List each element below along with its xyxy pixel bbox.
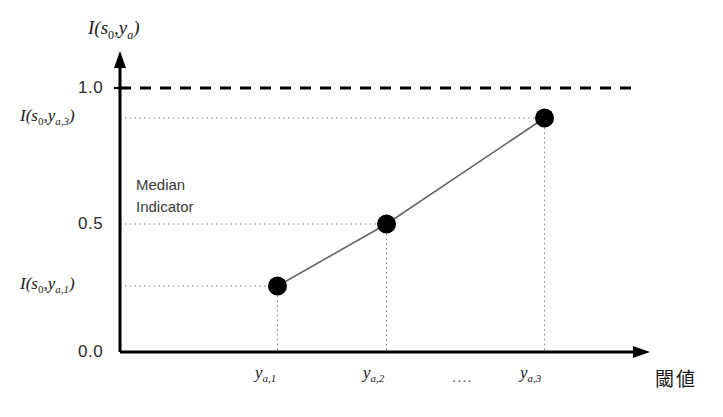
series-line-median-indicator [278, 118, 545, 286]
y-tick-ya3-fn: I [20, 106, 26, 125]
y-tick-label-0-0: 0.0 [78, 342, 103, 362]
y-tick-ya1-fn: I [20, 274, 26, 293]
y-tick-ya3-s: s [31, 106, 38, 125]
data-point-ya3 [535, 109, 554, 128]
y-axis-arrow [114, 51, 126, 68]
median-indicator-line-1: Median [136, 174, 194, 196]
y-tick-ya3-s-sub: 0 [38, 115, 44, 127]
x-tick-ya1-y: y [255, 363, 263, 382]
x-tick-ya2-y: y [363, 363, 371, 382]
x-tick-ya1-sub: a,1 [263, 372, 277, 384]
y-axis-caption-y: y [119, 17, 127, 38]
y-axis-caption-s: s [101, 17, 108, 38]
figure-canvas: I(s0,ya) 1.0 0.5 0.0 I(s0,ya,3) I(s0,ya,… [0, 0, 723, 417]
x-tick-label-ya1: ya,1 [255, 363, 276, 384]
y-tick-ya1-s-sub: 0 [38, 283, 44, 295]
plot-area [0, 0, 723, 417]
x-tick-ya2-sub: a,2 [371, 372, 385, 384]
x-tick-ellipsis: .... [452, 368, 473, 385]
data-point-ya1 [268, 277, 287, 296]
x-tick-label-ya2: ya,2 [363, 363, 384, 384]
x-tick-label-ya3: ya,3 [520, 363, 541, 384]
y-axis-caption-close: ) [133, 17, 139, 38]
y-tick-label-0-5: 0.5 [78, 214, 103, 234]
y-tick-label-ya1: I(s0,ya,1) [20, 274, 75, 295]
median-indicator-line-2: Indicator [136, 196, 194, 218]
y-tick-ya1-y-sub: a,1 [55, 283, 69, 295]
data-point-ya2 [377, 215, 396, 234]
y-axis-caption: I(s0,ya) [88, 17, 140, 43]
y-tick-ya1-s: s [31, 274, 38, 293]
x-tick-ya3-sub: a,3 [528, 372, 542, 384]
x-axis-arrow [633, 346, 650, 358]
x-tick-ya3-y: y [520, 363, 528, 382]
median-indicator-annotation: Median Indicator [136, 174, 194, 218]
y-tick-label-ya3: I(s0,ya,3) [20, 106, 75, 127]
x-axis-caption: 閾値 [655, 364, 697, 391]
y-tick-ya3-y-sub: a,3 [55, 115, 69, 127]
y-tick-label-1-0: 1.0 [78, 78, 103, 98]
